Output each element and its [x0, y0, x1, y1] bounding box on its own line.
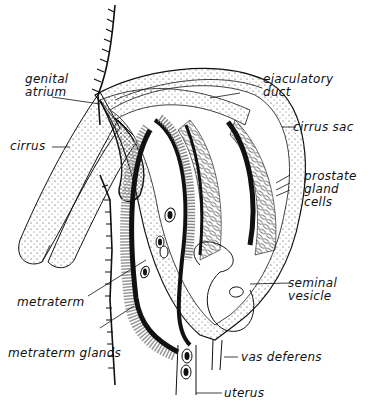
- diagram: genital atrium cirrus ejaculatory duct c…: [0, 0, 373, 409]
- label-metraterm: metraterm: [17, 296, 84, 309]
- label-cirrus: cirrus: [10, 140, 45, 153]
- label-ejaculatory-duct: ejaculatory duct: [263, 73, 333, 99]
- label-seminal-vesicle: seminal vesicle: [288, 277, 337, 303]
- label-cirrus-sac: cirrus sac: [293, 121, 354, 134]
- label-metraterm-glands: metraterm glands: [8, 347, 121, 360]
- label-prostate-gland-cells: prostate gland cells: [304, 170, 357, 209]
- label-genital-atrium: genital atrium: [25, 73, 68, 99]
- label-vas-deferens: vas deferens: [241, 351, 322, 364]
- label-uterus: uterus: [224, 387, 264, 400]
